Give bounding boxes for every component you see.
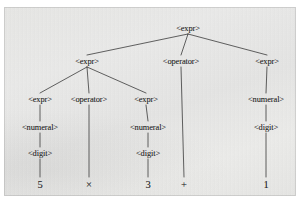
tree-edge (146, 105, 148, 121)
tree-edge (266, 67, 267, 93)
tree-node-expr: <expr> (28, 95, 52, 104)
tree-edge (40, 67, 87, 93)
tree-edge (188, 34, 267, 55)
tree-terminal-3: + (181, 179, 187, 190)
tree-terminal-2: 3 (145, 179, 150, 190)
tree-node-expr: <expr> (255, 57, 279, 66)
tree-node-numeral: <numeral> (130, 123, 166, 132)
tree-edge (87, 67, 146, 93)
tree-node-digit: <digit> (136, 149, 160, 158)
tree-terminal-4: 1 (263, 179, 268, 190)
tree-node-operator: <operator> (71, 95, 107, 104)
tree-edge (87, 34, 188, 55)
tree-edge (181, 67, 184, 177)
tree-node-numeral: <numeral> (22, 123, 58, 132)
tree-node-digit: <digit> (254, 123, 278, 132)
tree-terminal-0: 5 (37, 179, 42, 190)
tree-node-expr: <expr> (134, 95, 158, 104)
tree-terminal-1: × (86, 179, 92, 190)
tree-node-operator: <operator> (163, 57, 199, 66)
tree-node-expr: <expr> (176, 24, 200, 33)
tree-node-digit: <digit> (28, 149, 52, 158)
parse-tree-figure: <expr><expr><operator><expr><expr><opera… (0, 0, 303, 206)
tree-edge (181, 34, 188, 55)
tree-node-numeral: <numeral> (248, 95, 284, 104)
tree-node-expr: <expr> (75, 57, 99, 66)
tree-edge (87, 67, 89, 93)
